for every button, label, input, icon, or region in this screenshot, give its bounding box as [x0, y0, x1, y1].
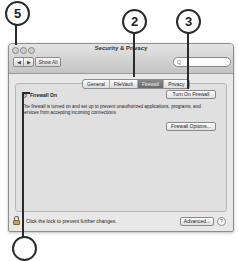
callout-3-leader: [187, 33, 189, 89]
callout-5: 5: [5, 1, 30, 26]
firewall-options-button[interactable]: Firewall Options...: [166, 122, 216, 131]
title-bar: Security & Privacy ◀ ▶ Show All Q: [9, 44, 233, 74]
turn-on-firewall-button[interactable]: Turn On Firewall: [166, 90, 216, 99]
security-privacy-window: Security & Privacy ◀ ▶ Show All Q Genera…: [8, 43, 234, 232]
callout-partial-leader: [22, 92, 24, 237]
tab-bar: General FileVault Firewall Privacy: [82, 79, 190, 89]
show-all-button[interactable]: Show All: [35, 57, 61, 67]
tab-general[interactable]: General: [83, 80, 110, 88]
callout-5-leader: [15, 25, 17, 45]
callout-2: 2: [122, 9, 147, 34]
help-button[interactable]: ?: [217, 217, 226, 226]
search-input[interactable]: Q: [173, 57, 231, 67]
callout-3: 3: [176, 9, 201, 34]
tab-filevault[interactable]: FileVault: [110, 80, 138, 88]
tab-privacy[interactable]: Privacy: [164, 80, 188, 88]
footer-bar: Click the lock to prevent further change…: [9, 214, 233, 231]
callout-2-leader: [133, 33, 135, 77]
callout-partial-leader-horizontal: [22, 92, 30, 94]
window-title: Security & Privacy: [9, 45, 233, 51]
callout-partial: [12, 236, 37, 261]
back-forward-buttons: ◀ ▶: [13, 57, 34, 67]
search-icon: Q: [177, 58, 181, 66]
firewall-description: The firewall is turned on and set up to …: [22, 104, 217, 116]
firewall-panel: Firewall On Turn On Firewall The firewal…: [15, 83, 227, 212]
lock-icon[interactable]: [13, 216, 20, 225]
tab-firewall[interactable]: Firewall: [138, 80, 164, 88]
lock-instructions: Click the lock to prevent further change…: [26, 218, 117, 224]
firewall-status-label: Firewall On: [30, 92, 57, 98]
back-button[interactable]: ◀: [14, 58, 24, 66]
forward-button[interactable]: ▶: [24, 58, 33, 66]
advanced-button[interactable]: Advanced...: [180, 217, 214, 226]
